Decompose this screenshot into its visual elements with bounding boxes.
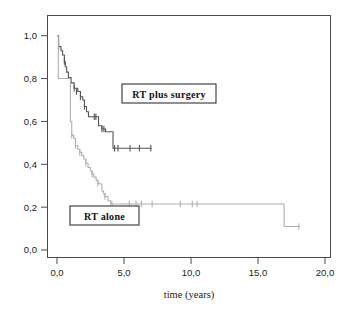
x-tick-label: 15,0 bbox=[249, 267, 268, 278]
y-tick-label: 0,8 bbox=[24, 73, 37, 84]
y-tick-label: 0,2 bbox=[24, 202, 37, 213]
y-tick-label: 0,6 bbox=[24, 116, 37, 127]
survival-plot: 0,00,20,40,60,81,0 0,05,010,015,020,0 ti… bbox=[0, 0, 354, 312]
rt-plus-surgery-annotation: RT plus surgery bbox=[122, 84, 216, 103]
rt-alone-annotation: RT alone bbox=[70, 206, 139, 225]
series-rt-alone bbox=[57, 36, 300, 230]
rt-plus-surgery-label: RT plus surgery bbox=[132, 89, 205, 100]
x-tick-label: 20,0 bbox=[316, 267, 335, 278]
y-axis-ticks: 0,00,20,40,60,81,0 bbox=[24, 30, 48, 255]
y-tick-label: 1,0 bbox=[24, 30, 37, 41]
x-axis-title-group: time (years) bbox=[164, 289, 215, 301]
y-tick-label: 0,0 bbox=[24, 244, 37, 255]
x-tick-label: 0,0 bbox=[50, 267, 63, 278]
x-tick-label: 10,0 bbox=[182, 267, 201, 278]
series-layer bbox=[57, 36, 300, 230]
x-axis-ticks: 0,05,010,015,020,0 bbox=[50, 258, 334, 279]
survival-curve bbox=[57, 36, 300, 227]
kaplan-meier-figure: 0,00,20,40,60,81,0 0,05,010,015,020,0 ti… bbox=[0, 0, 354, 312]
x-axis-title: time (years) bbox=[164, 289, 215, 301]
x-tick-label: 5,0 bbox=[117, 267, 130, 278]
y-tick-label: 0,4 bbox=[24, 159, 37, 170]
rt-alone-label: RT alone bbox=[84, 211, 125, 222]
